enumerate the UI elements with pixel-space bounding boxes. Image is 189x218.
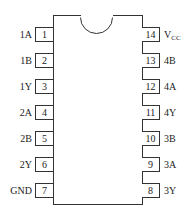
pin-4: 4 <box>35 105 53 120</box>
pin-label-4: 2A <box>20 105 32 120</box>
pin-label-11: 4Y <box>164 105 176 120</box>
pin-label-2: 1B <box>20 53 32 68</box>
orientation-notch <box>80 1 113 34</box>
pin-2: 2 <box>35 53 53 68</box>
chip-body <box>53 15 143 205</box>
chip-top-edge-left <box>53 15 81 16</box>
pin-3: 3 <box>35 79 53 94</box>
pin-6: 6 <box>35 157 53 172</box>
pin-label-10: 3B <box>164 131 176 146</box>
pin-1: 1 <box>35 27 53 42</box>
pin-label-14-sub: CC <box>171 34 180 42</box>
pin-label-3: 1Y <box>20 79 32 94</box>
pin-label-5: 2B <box>20 131 32 146</box>
pin-10: 10 <box>142 131 160 146</box>
pin-label-8: 3Y <box>164 183 176 198</box>
pin-label-9: 3A <box>164 157 176 172</box>
pin-11: 11 <box>142 105 160 120</box>
pin-14: 14 <box>142 27 160 42</box>
pin-8: 8 <box>142 183 160 198</box>
pin-12: 12 <box>142 79 160 94</box>
pin-label-6: 2Y <box>20 157 32 172</box>
pin-label-1: 1A <box>20 27 32 42</box>
pin-9: 9 <box>142 157 160 172</box>
pin-13: 13 <box>142 53 160 68</box>
ic-pinout-diagram: 1A 1 1B 2 1Y 3 2A 4 2B 5 2Y 6 GND 7 14 V… <box>0 0 189 218</box>
pin-label-13: 4B <box>164 53 176 68</box>
pin-label-12: 4A <box>164 79 176 94</box>
pin-label-14: VCC <box>164 27 181 46</box>
pin-5: 5 <box>35 131 53 146</box>
chip-top-edge-right <box>113 15 142 16</box>
pin-label-7: GND <box>10 183 32 198</box>
pin-7: 7 <box>35 183 53 198</box>
